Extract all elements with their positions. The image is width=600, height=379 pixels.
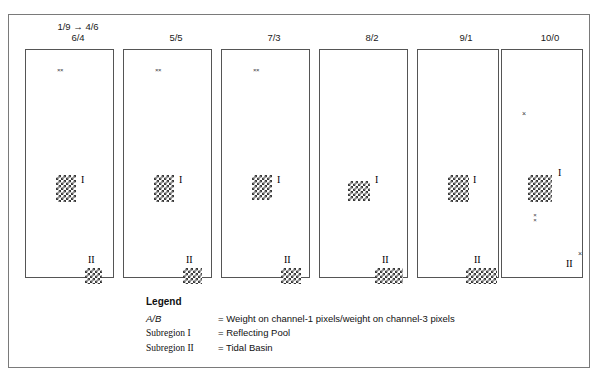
panel-6-4: ×× I II: [25, 49, 114, 278]
subregion-two-block: [466, 268, 497, 284]
column-header-1-transition: 1/9 → 4/6: [33, 21, 123, 32]
subregion-one-label: I: [179, 175, 182, 185]
column-header-4: 8/2: [327, 32, 417, 43]
column-header-2: 5/5: [131, 32, 221, 43]
panel-9-1: I II: [417, 49, 499, 278]
subregion-one-label: I: [81, 175, 84, 185]
legend-row-subregion-one: Subregion I= Reflecting Pool: [146, 326, 455, 341]
column-header-2-label: 5/5: [131, 32, 221, 43]
column-header-6-label: 10/0: [505, 32, 595, 43]
speckle-pair-icon: ××: [532, 212, 537, 222]
speckle-pair-icon: ××: [57, 68, 63, 73]
subregion-one-block: [528, 175, 552, 202]
speckle-pair-icon: ××: [155, 68, 161, 73]
subregion-one-block: [348, 181, 370, 201]
subregion-two-block: [183, 268, 202, 284]
subregion-one-label: I: [277, 175, 280, 185]
speckle-icon: ×: [578, 250, 582, 257]
legend-row-subregion-two: Subregion II= Tidal Basin: [146, 341, 455, 356]
panel-7-3: ×× I II: [221, 49, 310, 278]
speckle-pair-icon: ××: [253, 68, 259, 73]
subregion-two-label: II: [186, 255, 193, 265]
subregion-two-block: [85, 268, 102, 284]
legend-value-subregion-two: = Tidal Basin: [218, 342, 273, 353]
subregion-one-block: [56, 175, 76, 202]
subregion-two-label: II: [88, 255, 95, 265]
subregion-two-label: II: [566, 259, 573, 269]
column-header-5: 9/1: [421, 32, 511, 43]
figure-frame: 1/9 → 4/6 6/4 5/5 7/3 8/2 9/1 10/0 ×× I …: [8, 14, 590, 368]
subregion-one-label: I: [473, 175, 476, 185]
subregion-one-label: I: [375, 175, 378, 185]
subregion-two-label: II: [382, 255, 389, 265]
legend-key-ratio: A/B: [146, 312, 218, 327]
column-header-5-label: 9/1: [421, 32, 511, 43]
column-header-1: 1/9 → 4/6 6/4: [33, 21, 123, 43]
subregion-one-block: [154, 175, 174, 202]
subregion-two-label: II: [474, 255, 481, 265]
legend-value-ratio: = Weight on channel-1 pixels/weight on c…: [218, 313, 455, 324]
panel-5-5: ×× I II: [123, 49, 212, 278]
column-header-1-label: 6/4: [33, 32, 123, 43]
column-header-4-label: 8/2: [327, 32, 417, 43]
speckle-icon: ×: [522, 110, 526, 117]
legend-key-subregion-two: Subregion II: [146, 341, 218, 356]
column-header-3-label: 7/3: [229, 32, 319, 43]
subregion-one-label: I: [558, 168, 561, 178]
legend-value-subregion-one: = Reflecting Pool: [218, 327, 290, 338]
legend: Legend A/B= Weight on channel-1 pixels/w…: [146, 295, 455, 355]
legend-row-ratio: A/B= Weight on channel-1 pixels/weight o…: [146, 312, 455, 327]
column-header-3: 7/3: [229, 32, 319, 43]
panel-8-2: I II: [319, 49, 408, 278]
legend-title: Legend: [146, 295, 455, 310]
panel-10-0: × I ×× II ×: [501, 49, 583, 278]
subregion-one-block: [448, 175, 469, 202]
subregion-one-block: [252, 175, 272, 200]
legend-key-subregion-one: Subregion I: [146, 326, 218, 341]
subregion-two-label: II: [284, 255, 291, 265]
column-header-6: 10/0: [505, 32, 595, 43]
subregion-two-block: [281, 268, 301, 284]
subregion-two-block: [375, 268, 403, 284]
